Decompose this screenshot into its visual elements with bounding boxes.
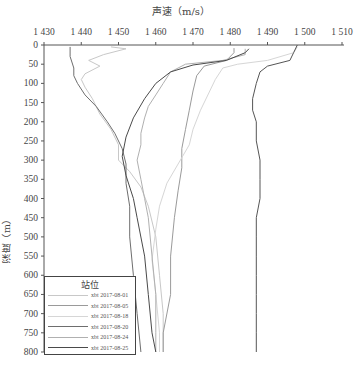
- series-line: [163, 48, 234, 352]
- y-tick-label: 700: [24, 309, 39, 319]
- x-tick-label: 1 490: [257, 27, 279, 37]
- series-line: [253, 45, 298, 352]
- series-line: [152, 47, 297, 352]
- series-line: [137, 49, 245, 352]
- y-tick-label: 0: [33, 40, 38, 50]
- series-line: [122, 49, 249, 352]
- legend-label: xbt 2017-08-05: [91, 303, 128, 309]
- y-tick-label: 650: [24, 289, 39, 299]
- y-tick-label: 800: [24, 347, 39, 357]
- y-tick-label: 200: [24, 117, 39, 127]
- legend-item: xbt 2017-08-05: [45, 301, 135, 312]
- y-tick-label: 550: [24, 251, 39, 261]
- legend-swatch: [48, 347, 88, 348]
- x-tick-label: 1 430: [33, 27, 55, 37]
- legend-item: xbt 2017-08-25: [45, 343, 135, 354]
- legend-label: xbt 2017-08-25: [91, 345, 128, 351]
- legend-item: xbt 2017-08-01: [45, 290, 135, 301]
- x-tick-label: 1 440: [71, 27, 93, 37]
- legend-label: xbt 2017-08-24: [91, 334, 128, 340]
- y-tick-label: 250: [24, 136, 39, 146]
- y-tick-label: 400: [24, 194, 39, 204]
- y-tick-label: 450: [24, 213, 39, 223]
- legend-swatch: [48, 326, 88, 327]
- y-tick-label: 50: [29, 59, 39, 69]
- x-tick-label: 1 480: [220, 27, 242, 37]
- x-tick-label: 1 510: [331, 27, 353, 37]
- legend-swatch: [48, 316, 88, 317]
- legend-label: xbt 2017-08-01: [91, 292, 128, 298]
- y-tick-label: 100: [24, 78, 39, 88]
- legend-item: xbt 2017-08-20: [45, 322, 135, 333]
- legend-label: xbt 2017-08-20: [91, 324, 128, 330]
- y-tick-label: 150: [24, 98, 39, 108]
- x-tick-label: 1 460: [145, 27, 167, 37]
- x-tick-label: 1 450: [108, 27, 130, 37]
- legend-item: xbt 2017-08-18: [45, 311, 135, 322]
- legend-item: xbt 2017-08-24: [45, 332, 135, 343]
- y-tick-label: 750: [24, 328, 39, 338]
- legend-title: 站位: [45, 278, 135, 290]
- legend-swatch: [48, 337, 88, 338]
- y-tick-label: 350: [24, 174, 39, 184]
- y-axis-label: 深度（m）: [0, 214, 14, 263]
- x-tick-label: 1 500: [294, 27, 316, 37]
- legend: 站位 xbt 2017-08-01xbt 2017-08-05xbt 2017-…: [44, 276, 136, 355]
- y-tick-label: 500: [24, 232, 39, 242]
- y-tick-label: 600: [24, 270, 39, 280]
- y-tick-label: 300: [24, 155, 39, 165]
- legend-swatch: [48, 305, 88, 306]
- x-tick-label: 1 470: [182, 27, 204, 37]
- legend-swatch: [48, 295, 88, 296]
- legend-label: xbt 2017-08-18: [91, 313, 128, 319]
